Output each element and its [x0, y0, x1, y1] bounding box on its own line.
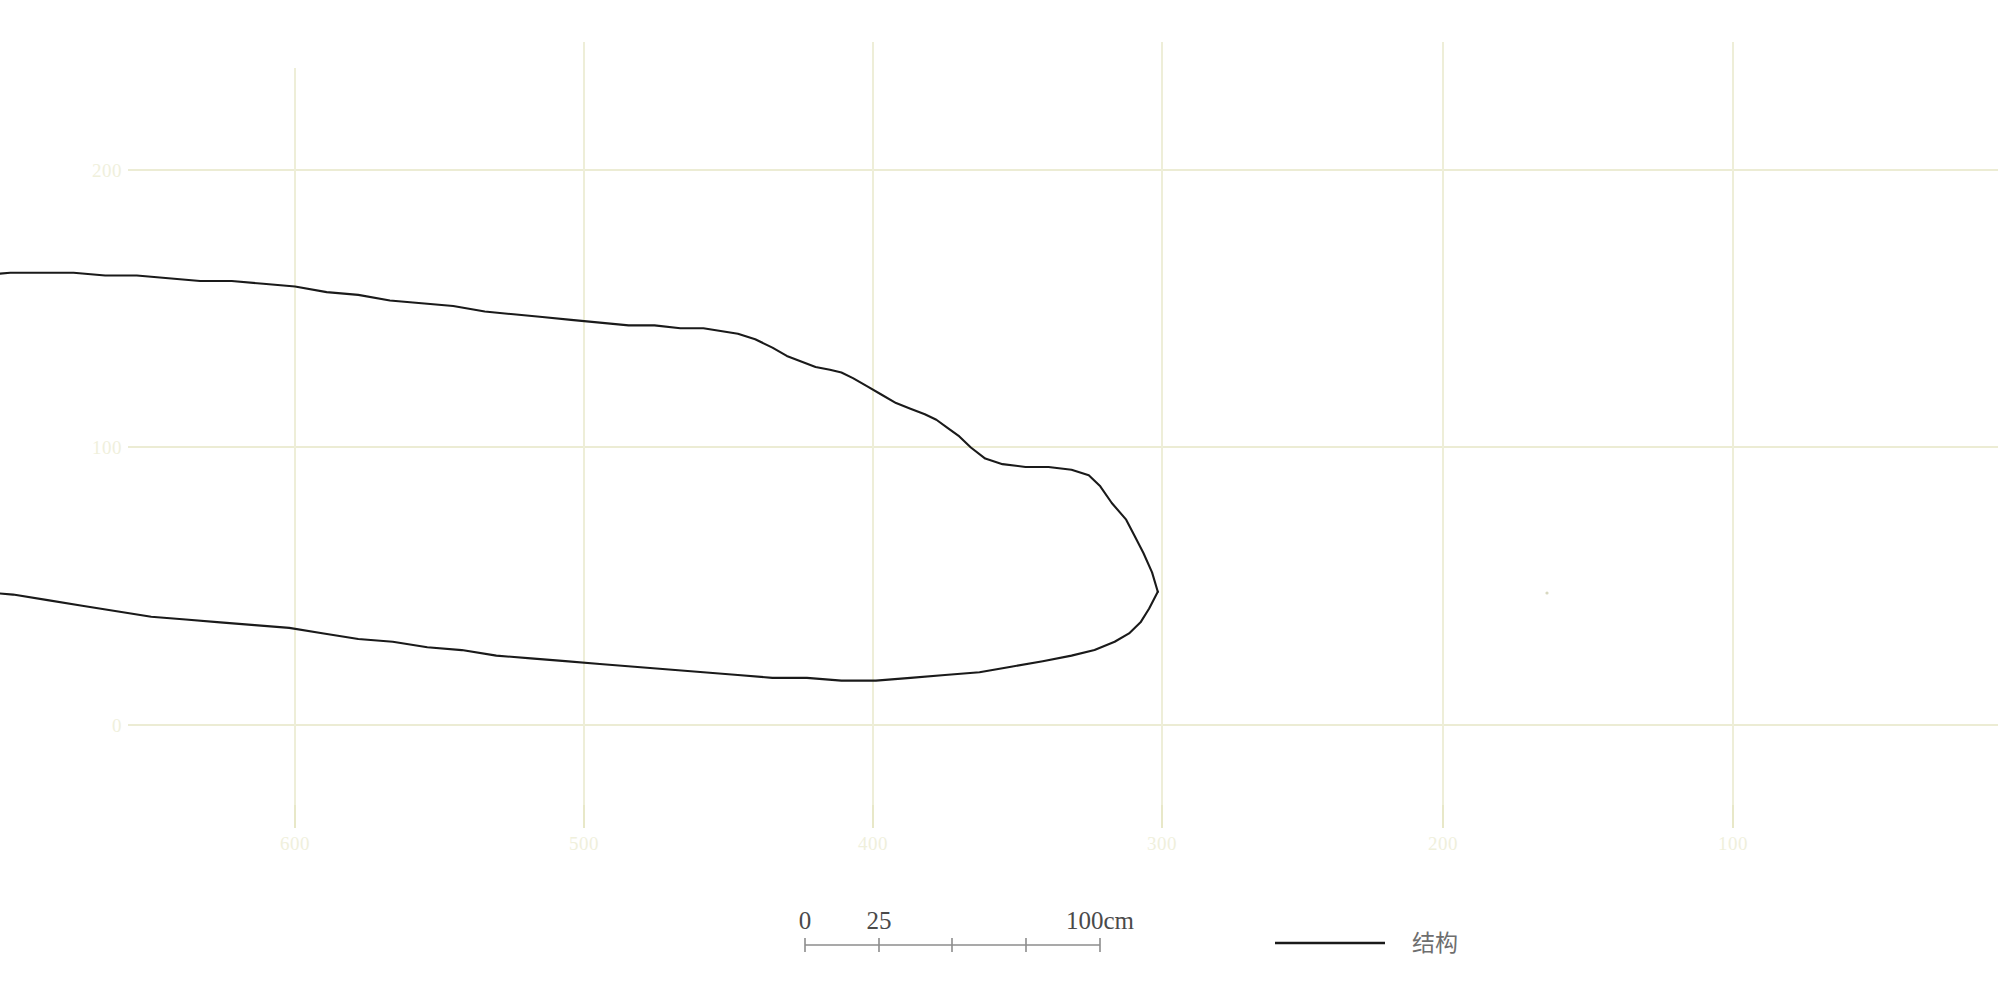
xtick-label-300: 300 — [1147, 833, 1177, 854]
ytick-label-100: 100 — [92, 437, 122, 458]
xtick-label-600: 600 — [280, 833, 310, 854]
scale-label-25: 25 — [867, 907, 892, 934]
series-group — [0, 273, 1158, 681]
y-axis-labels: 200 100 0 — [92, 160, 122, 736]
grid-group — [128, 42, 1998, 828]
speck-artifact — [1545, 591, 1548, 594]
legend-label-structure: 结构 — [1412, 930, 1458, 956]
series-path-lower-outline — [0, 553, 1158, 681]
scale-label-0: 0 — [799, 907, 812, 934]
xtick-label-200: 200 — [1428, 833, 1458, 854]
ytick-label-200: 200 — [92, 160, 122, 181]
ytick-label-0: 0 — [112, 715, 122, 736]
xtick-label-100: 100 — [1718, 833, 1748, 854]
xtick-label-500: 500 — [569, 833, 599, 854]
series-path-upper-outline — [0, 273, 1158, 592]
scale-bar: 0 25 100cm — [799, 907, 1135, 952]
figure-canvas: 200 100 0 600 500 400 300 200 100 0 25 1… — [0, 0, 1998, 1008]
scale-label-100: 100cm — [1066, 907, 1135, 934]
x-axis-labels: 600 500 400 300 200 100 — [280, 833, 1748, 854]
plot-svg: 200 100 0 600 500 400 300 200 100 0 25 1… — [0, 0, 1998, 1008]
legend: 结构 — [1275, 930, 1458, 956]
xtick-label-400: 400 — [858, 833, 888, 854]
